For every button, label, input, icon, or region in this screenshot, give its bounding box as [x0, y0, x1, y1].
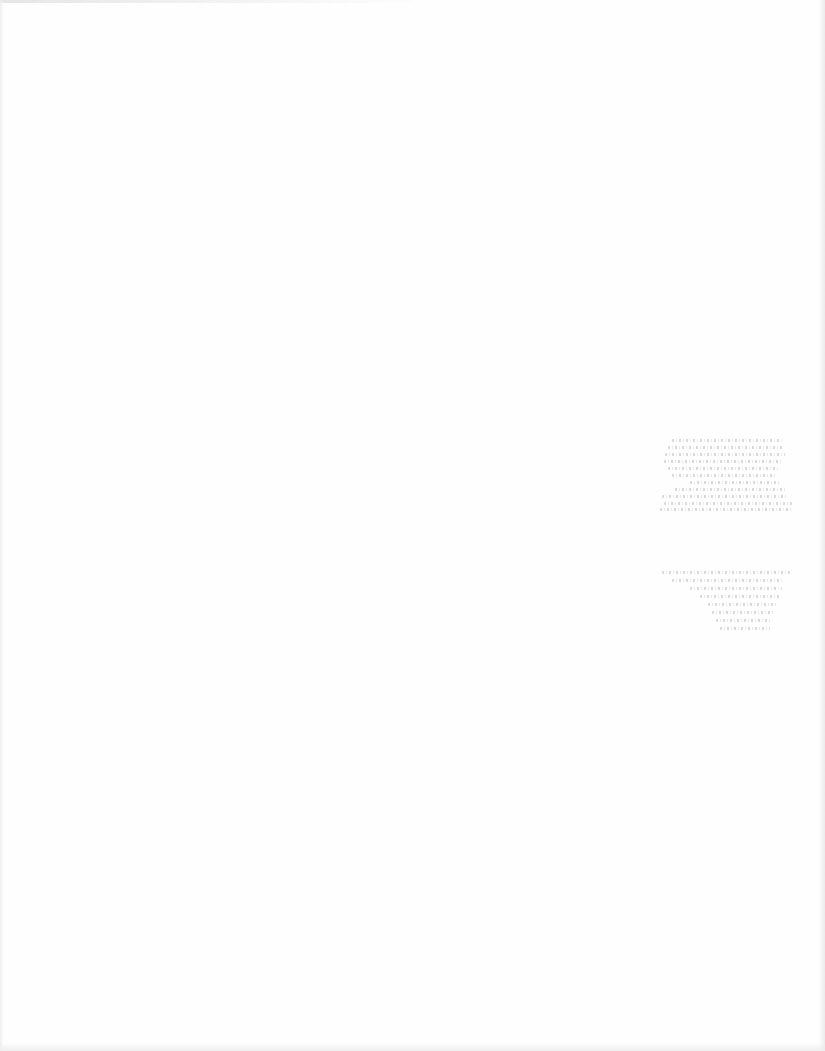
bleed-through-line	[664, 460, 782, 463]
scan-border-bottom	[0, 1043, 825, 1051]
bleed-through-line	[662, 571, 790, 574]
bleed-through-line	[690, 587, 782, 590]
bleed-through-line	[664, 502, 792, 505]
bleed-through-line	[672, 474, 777, 477]
bleed-through-line	[672, 439, 782, 442]
bleed-through-line	[668, 467, 778, 470]
scan-border-left	[0, 0, 4, 1051]
scanned-page	[0, 0, 825, 1051]
scan-border-right	[819, 0, 825, 1051]
bleed-through-line	[720, 627, 770, 630]
bleed-through-line	[690, 481, 780, 484]
bleed-through-line	[668, 446, 782, 449]
scan-border-top	[0, 0, 420, 3]
bleed-through-line	[665, 453, 785, 456]
bleed-through-line	[708, 603, 778, 606]
bleed-through-line	[660, 508, 792, 511]
bleed-through-line	[716, 619, 772, 622]
bleed-through-line	[662, 495, 788, 498]
bleed-through-line	[672, 579, 782, 582]
bleed-through-line	[700, 595, 780, 598]
bleed-through-line	[675, 488, 787, 491]
bleed-through-line	[712, 611, 774, 614]
